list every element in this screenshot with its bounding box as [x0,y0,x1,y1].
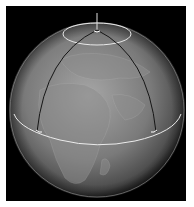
globe-diagram [0,0,194,207]
